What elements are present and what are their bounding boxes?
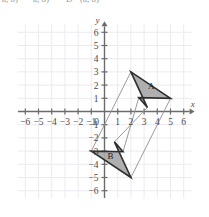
x-tick-label: 1 <box>115 117 120 127</box>
x-tick-label: 2 <box>129 117 134 127</box>
coordinate-grid-svg: AB xy−6−5−4−3−2−11234560−6−5−4−3−2−11234… <box>0 6 209 217</box>
tick-labels: xy−6−5−4−3−2−11234560−6−5−4−3−2−1123456 <box>20 15 194 196</box>
y-tick-label: 1 <box>94 94 99 104</box>
header-fragment: (a, b) <box>80 0 99 4</box>
y-axis-arrow <box>102 21 108 26</box>
shape-label-b: B <box>107 151 113 161</box>
y-tick-label: 3 <box>94 67 99 77</box>
y-tick-label: −4 <box>88 160 98 170</box>
x-tick-label: 6 <box>181 117 186 127</box>
x-tick-label: −6 <box>20 117 30 127</box>
x-tick-label: −3 <box>60 117 70 127</box>
y-tick-label: −2 <box>88 133 98 143</box>
y-tick-label: 6 <box>94 28 99 38</box>
x-tick-label: −2 <box>73 117 83 127</box>
x-axis-arrow <box>190 109 195 115</box>
y-tick-label: 5 <box>94 41 99 51</box>
x-tick-label: −5 <box>33 117 43 127</box>
x-tick-label: −4 <box>47 117 57 127</box>
x-tick-label: 3 <box>142 117 147 127</box>
y-tick-label: −1 <box>88 120 98 130</box>
y-axis-label: y <box>95 15 100 25</box>
header-fragment: D <box>66 0 73 4</box>
y-tick-label: −6 <box>88 186 98 196</box>
header-fragment: a, b) <box>33 0 49 4</box>
y-tick-label: 4 <box>94 54 99 64</box>
coordinate-plane-figure: a, b)a, b)D(a, b) AB xy−6−5−4−3−2−112345… <box>0 0 209 217</box>
y-tick-label: −5 <box>88 173 98 183</box>
axes <box>18 21 195 198</box>
x-tick-label: 4 <box>155 117 160 127</box>
y-tick-label: −3 <box>88 147 98 157</box>
header-fragment: a, b) <box>2 0 18 4</box>
graph-canvas: AB xy−6−5−4−3−2−11234560−6−5−4−3−2−11234… <box>0 6 209 217</box>
shape-label-a: A <box>148 81 155 91</box>
x-axis-label: x <box>190 99 195 109</box>
x-tick-label: 5 <box>168 117 173 127</box>
y-tick-label: 2 <box>94 81 99 91</box>
